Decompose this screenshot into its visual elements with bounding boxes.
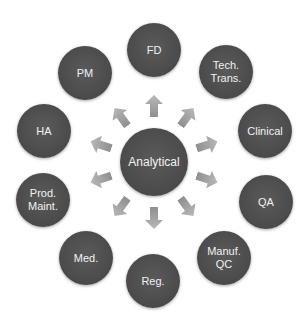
arrow-to-fd: [145, 95, 163, 117]
node-label: Analytical: [128, 156, 179, 169]
arrow-to-tech-trans: [173, 102, 200, 130]
center-node-analytical: Analytical: [120, 128, 188, 196]
arrow-to-ha: [87, 133, 113, 157]
arrow-icon: [145, 207, 163, 229]
arrow-icon: [194, 133, 220, 157]
node-label: Reg.: [141, 275, 164, 288]
node-label: PM: [77, 67, 94, 80]
arrow-icon: [107, 193, 134, 221]
arrow-icon: [87, 133, 113, 157]
node-tech-trans: Tech. Trans.: [199, 45, 253, 99]
arrow-to-qa: [194, 167, 220, 191]
node-label: Manuf. QC: [207, 245, 241, 271]
arrow-icon: [173, 193, 200, 221]
arrow-to-prod-maint: [87, 167, 113, 191]
node-label: Clinical: [247, 125, 282, 138]
node-label: QA: [258, 196, 274, 209]
arrow-to-manuf-qc: [173, 193, 200, 221]
node-qa: QA: [239, 175, 293, 229]
node-ha: HA: [17, 104, 71, 158]
arrow-to-med: [107, 193, 134, 221]
node-prod-maint: Prod. Maint.: [16, 173, 70, 227]
arrow-icon: [145, 95, 163, 117]
node-reg: Reg.: [126, 254, 180, 308]
arrow-icon: [194, 167, 220, 191]
arrow-to-clinical: [194, 133, 220, 157]
node-clinical: Clinical: [238, 104, 292, 158]
arrow-icon: [173, 102, 200, 130]
node-fd: FD: [127, 23, 181, 77]
node-pm: PM: [58, 46, 112, 100]
arrow-to-pm: [107, 102, 134, 130]
node-manuf-qc: Manuf. QC: [197, 231, 251, 285]
node-label: Tech. Trans.: [211, 59, 242, 85]
node-label: FD: [147, 44, 162, 57]
node-med: Med.: [59, 231, 113, 285]
node-label: HA: [36, 125, 51, 138]
node-label: Prod. Maint.: [28, 187, 58, 213]
arrow-icon: [87, 167, 113, 191]
node-label: Med.: [74, 252, 98, 265]
arrow-to-reg: [145, 207, 163, 229]
arrow-icon: [107, 102, 134, 130]
